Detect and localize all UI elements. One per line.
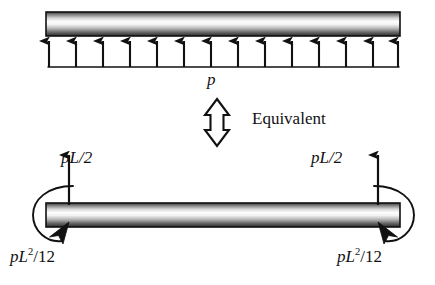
top-beam: [46, 12, 400, 36]
bottom-beam-group: [46, 203, 400, 227]
left-moment-label: pL2/12: [10, 247, 55, 265]
beam-diagram-svg: [0, 0, 435, 285]
bottom-beam: [46, 203, 400, 227]
left-reaction-label: pL/2: [61, 149, 92, 166]
left-moment-base: pL: [10, 247, 28, 266]
top-beam-group: [46, 12, 400, 36]
right-moment-label: pL2/12: [337, 247, 382, 265]
distributed-load-label: p: [207, 71, 216, 88]
right-reaction-label: pL/2: [311, 149, 342, 166]
right-moment-divisor: /12: [360, 247, 382, 266]
equivalent-label: Equivalent: [252, 110, 326, 127]
double-headed-arrow-outline: [205, 99, 229, 146]
left-moment-divisor: /12: [33, 247, 55, 266]
distributed-load-arrows: [48, 41, 400, 67]
figure-canvas: p Equivalent pL/2 pL/2 pL2/12 pL2/12: [0, 0, 435, 285]
equivalent-double-arrow: [205, 99, 229, 146]
right-moment-base: pL: [337, 247, 355, 266]
